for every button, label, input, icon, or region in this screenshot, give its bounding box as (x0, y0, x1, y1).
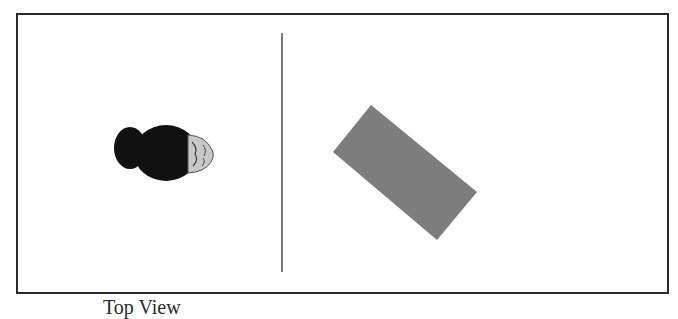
figure-canvas (0, 0, 678, 319)
person-head-top-view-icon (114, 125, 213, 181)
rotated-rectangle-shape (333, 105, 477, 240)
figure-caption: Top View (103, 296, 181, 318)
